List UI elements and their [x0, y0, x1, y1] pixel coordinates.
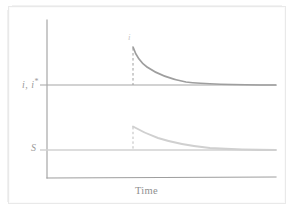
y-axis-label-saving: S [31, 143, 36, 153]
x-axis-label-text: Time [135, 185, 158, 196]
x-axis-line [47, 177, 276, 178]
y-axis-label-interest-rate-superscript: * [35, 77, 40, 86]
y-axis-label-saving-text: S [31, 142, 36, 153]
impulse-response-curve-interest-rate [133, 47, 276, 85]
impulse-response-plot [0, 0, 293, 209]
annotation-impulse-i: i [128, 33, 131, 42]
x-axis-label: Time [0, 186, 293, 197]
y-axis-label-interest-rate-text: i, i [22, 79, 35, 90]
y-axis-label-interest-rate: i, i* [22, 78, 39, 90]
impulse-response-curve-saving [133, 127, 276, 151]
annotation-impulse-i-text: i [128, 32, 131, 42]
figure-root: i, i* S i Time [0, 0, 293, 209]
